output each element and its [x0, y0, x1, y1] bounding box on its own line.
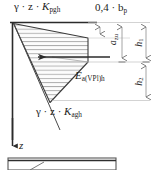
label-width-dimension: 0,4 · bp: [95, 2, 127, 15]
resultant-subscript: a(VPl)h: [82, 75, 105, 83]
label-passive-pressure: γ · z · Kpgh: [14, 1, 60, 14]
active-subscript: agh: [71, 111, 81, 119]
z-symbol: z: [19, 139, 23, 151]
h2-subscript: 2: [137, 77, 144, 80]
azu-symbol: a: [107, 40, 118, 45]
passive-subscript: pgh: [49, 6, 60, 14]
label-lower-height-h2: h2: [134, 77, 145, 85]
h2-symbol: h: [133, 81, 144, 86]
width-dimension-subscript: p: [123, 7, 127, 15]
passive-prefix: γ · z ·: [14, 0, 42, 12]
h1-subscript: 1: [137, 38, 144, 41]
next-figure-fragment-slope: [30, 162, 44, 170]
h1-symbol: h: [133, 42, 144, 47]
resultant-symbol: E: [75, 69, 82, 81]
label-active-pressure: γ · z · Kagh: [36, 106, 82, 119]
azu-subscript: zu: [112, 34, 119, 40]
active-prefix: γ · z ·: [36, 105, 64, 117]
earth-pressure-diagram: γ · z · Kpgh 0,4 · bp azu h1 h2 Ea(VPl)h…: [0, 0, 156, 170]
label-upper-height-h1: h1: [134, 38, 145, 46]
label-depth-axis-z: z: [19, 140, 23, 151]
width-dimension-text: 0,4 · b: [95, 1, 123, 13]
label-resultant-force: Ea(VPl)h: [75, 70, 105, 83]
label-depth-azu: azu: [108, 34, 119, 45]
pressure-wedge-hatched: [14, 24, 89, 103]
